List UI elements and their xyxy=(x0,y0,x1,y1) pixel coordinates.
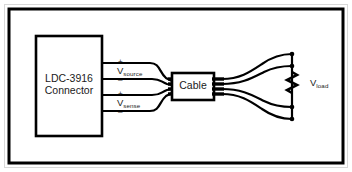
v-load-label: Vload xyxy=(310,78,328,89)
junction-dot-icon xyxy=(290,117,295,122)
connector-label-line1: LDC-3916 xyxy=(38,73,100,85)
v-source-minus-sign: – xyxy=(118,76,122,84)
connector-label-line2: Connector xyxy=(38,85,100,97)
v-sense-plus-sign: + xyxy=(118,90,123,98)
wire-source-minus xyxy=(102,79,172,85)
cable-label: Cable xyxy=(174,80,212,92)
wire-load-upper-mid xyxy=(222,66,292,84)
connector-label: LDC-3916 Connector xyxy=(38,73,100,97)
junction-dot-icon xyxy=(290,64,295,69)
v-source-plus-sign: + xyxy=(118,58,123,66)
v-load-subscript: load xyxy=(316,82,328,89)
wiring-diagram-figure: LDC-3916 Connector Cable Vsource + – Vse… xyxy=(0,0,352,172)
v-sense-minus-sign: – xyxy=(118,108,122,116)
cable-to-load-wires xyxy=(222,54,292,119)
v-sense-subscript: sense xyxy=(123,102,140,109)
junction-dot-icon xyxy=(290,105,295,110)
junction-dot-icon xyxy=(290,52,295,57)
wire-sense-plus xyxy=(102,89,172,95)
v-source-subscript: source xyxy=(123,70,142,77)
wire-load-lower-mid xyxy=(222,89,292,107)
